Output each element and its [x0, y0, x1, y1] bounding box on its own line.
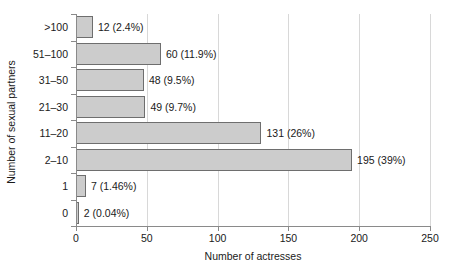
x-axis-tick-label: 100 — [198, 232, 238, 245]
y-axis-tick-label: 51–100 — [16, 48, 68, 60]
y-axis-tick-label: >100 — [16, 21, 68, 33]
bar — [76, 43, 161, 65]
y-axis-line — [76, 14, 77, 227]
bar — [76, 96, 145, 118]
y-axis-tick — [71, 41, 76, 42]
bar-value-label: 7 (1.46%) — [91, 180, 137, 192]
bar-value-label: 12 (2.4%) — [98, 21, 144, 33]
bar-value-label: 131 (26%) — [266, 127, 314, 139]
y-axis-tick — [71, 67, 76, 68]
x-axis-tick — [288, 227, 289, 231]
y-axis-tick-label: 1 — [16, 180, 68, 192]
bar-value-label: 49 (9.7%) — [150, 101, 196, 113]
x-axis-line — [76, 226, 431, 227]
plot-area — [76, 14, 430, 226]
bar — [76, 122, 261, 144]
bar-value-label: 195 (39%) — [357, 154, 405, 166]
y-axis-tick-label: 0 — [16, 207, 68, 219]
y-axis-tick-label: 11–20 — [16, 127, 68, 139]
y-axis-tick — [71, 173, 76, 174]
y-axis-tick — [71, 94, 76, 95]
bar-value-label: 48 (9.5%) — [149, 74, 195, 86]
x-axis-tick — [430, 227, 431, 231]
gridline — [359, 14, 360, 226]
y-axis-tick — [71, 147, 76, 148]
bar — [76, 16, 93, 38]
x-axis-tick — [76, 227, 77, 231]
bar-value-label: 60 (11.9%) — [166, 48, 217, 60]
y-axis-tick-label: 31–50 — [16, 74, 68, 86]
bar — [76, 175, 86, 197]
y-axis-tick-label: 21–30 — [16, 101, 68, 113]
x-axis-tick — [359, 227, 360, 231]
y-axis-tick-label: 2–10 — [16, 154, 68, 166]
x-axis-tick-label: 0 — [56, 232, 96, 245]
gridline — [218, 14, 219, 226]
x-axis-tick-label: 200 — [339, 232, 379, 245]
y-axis-tick — [71, 120, 76, 121]
x-axis-tick — [218, 227, 219, 231]
x-axis-tick-label: 50 — [127, 232, 167, 245]
gridline — [430, 14, 431, 226]
x-axis-tick-label: 250 — [410, 232, 450, 245]
bar-value-label: 2 (0.04%) — [84, 207, 130, 219]
bar-chart: Number of sexual partners 12 (2.4%)>1006… — [0, 0, 459, 274]
x-axis-tick — [147, 227, 148, 231]
x-axis-tick-label: 150 — [268, 232, 308, 245]
gridline — [288, 14, 289, 226]
y-axis-tick — [71, 200, 76, 201]
x-axis-title: Number of actresses — [76, 250, 430, 263]
y-axis-tick — [71, 14, 76, 15]
bar — [76, 69, 144, 91]
bar — [76, 149, 352, 171]
